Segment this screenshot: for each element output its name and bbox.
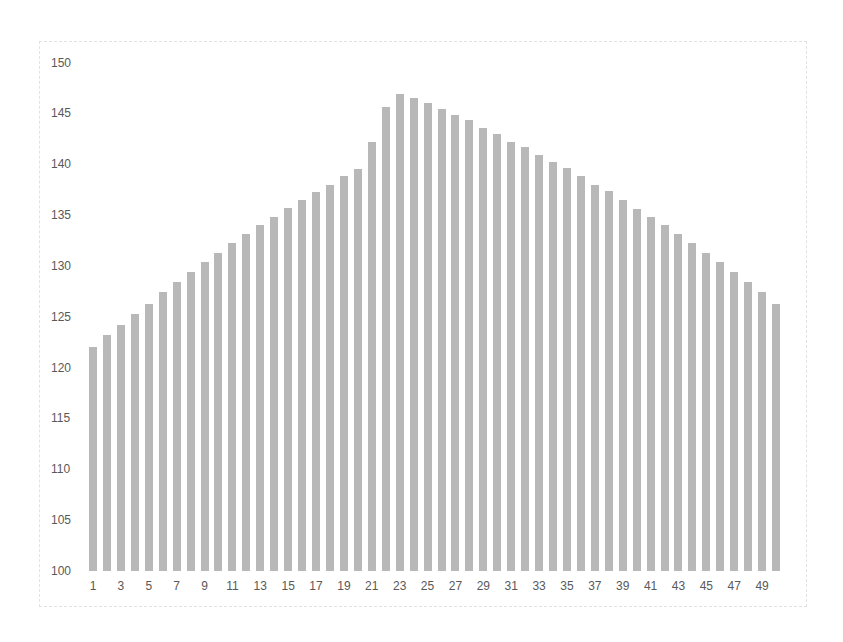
bar <box>730 272 738 571</box>
y-tick-label: 115 <box>51 412 70 424</box>
bar <box>103 335 111 571</box>
y-tick-label: 125 <box>51 311 71 323</box>
y-tick-label: 130 <box>51 260 71 272</box>
x-tick-label: 45 <box>692 580 720 592</box>
bar <box>563 168 571 571</box>
bar <box>605 191 613 571</box>
bar <box>382 107 390 571</box>
bar <box>340 176 348 571</box>
bar <box>354 169 362 571</box>
bar <box>424 103 432 571</box>
x-tick-label: 19 <box>330 580 358 592</box>
bar <box>145 304 153 571</box>
bar <box>619 200 627 571</box>
x-tick-label: 27 <box>441 580 469 592</box>
bar <box>772 304 780 571</box>
bar <box>159 292 167 571</box>
bar <box>674 234 682 571</box>
bar <box>131 314 139 571</box>
y-tick-label: 140 <box>51 158 71 170</box>
bar <box>242 234 250 571</box>
bar <box>410 98 418 571</box>
x-tick-label: 17 <box>302 580 330 592</box>
x-tick-label: 5 <box>135 580 163 592</box>
bar <box>298 200 306 571</box>
x-tick-label: 29 <box>469 580 497 592</box>
bar <box>535 155 543 571</box>
bar <box>633 209 641 571</box>
x-tick-label: 23 <box>386 580 414 592</box>
bar <box>465 120 473 571</box>
bar <box>744 282 752 571</box>
x-tick-label: 7 <box>163 580 191 592</box>
bar <box>326 185 334 571</box>
x-tick-label: 25 <box>414 580 442 592</box>
bar <box>228 243 236 571</box>
bar <box>688 243 696 571</box>
x-tick-label: 13 <box>246 580 274 592</box>
bar <box>451 115 459 571</box>
x-tick-label: 33 <box>525 580 553 592</box>
bar <box>214 253 222 571</box>
bar <box>479 128 487 571</box>
x-tick-label: 3 <box>107 580 135 592</box>
y-tick-label: 105 <box>51 514 71 526</box>
bar <box>493 134 501 571</box>
bar <box>716 262 724 571</box>
y-tick-label: 150 <box>51 57 71 69</box>
bar <box>368 142 376 571</box>
bar <box>661 225 669 571</box>
bar <box>89 347 97 571</box>
bar <box>438 109 446 571</box>
x-tick-label: 21 <box>358 580 386 592</box>
x-tick-label: 41 <box>637 580 665 592</box>
y-tick-label: 145 <box>51 107 71 119</box>
bar <box>702 253 710 571</box>
bar <box>256 225 264 571</box>
x-tick-label: 31 <box>497 580 525 592</box>
bar <box>284 208 292 571</box>
x-tick-label: 15 <box>274 580 302 592</box>
bar <box>591 185 599 571</box>
x-tick-label: 11 <box>218 580 246 592</box>
bar <box>201 262 209 571</box>
x-tick-label: 43 <box>664 580 692 592</box>
x-tick-label: 37 <box>581 580 609 592</box>
x-tick-label: 49 <box>748 580 776 592</box>
y-tick-label: 100 <box>51 565 71 577</box>
bar <box>549 162 557 571</box>
y-tick-label: 135 <box>51 209 71 221</box>
bar <box>117 325 125 571</box>
bar <box>396 94 404 571</box>
y-tick-label: 120 <box>51 362 71 374</box>
bar <box>173 282 181 571</box>
x-tick-label: 47 <box>720 580 748 592</box>
bar <box>577 176 585 571</box>
bar <box>507 142 515 571</box>
x-tick-label: 35 <box>553 580 581 592</box>
bar <box>758 292 766 571</box>
bar <box>312 192 320 571</box>
y-tick-label: 110 <box>51 463 70 475</box>
x-tick-label: 39 <box>609 580 637 592</box>
x-tick-label: 1 <box>79 580 107 592</box>
bar <box>187 272 195 571</box>
bar <box>647 217 655 571</box>
bar <box>270 217 278 571</box>
x-tick-label: 9 <box>191 580 219 592</box>
bar <box>521 147 529 571</box>
